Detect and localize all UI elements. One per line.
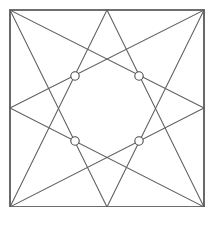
node-lower-left (71, 137, 79, 145)
node-upper-left (71, 72, 79, 80)
node-lower-right (135, 137, 143, 145)
bottom-margin (0, 207, 211, 243)
figure-root (0, 0, 211, 243)
node-upper-right (135, 72, 143, 80)
